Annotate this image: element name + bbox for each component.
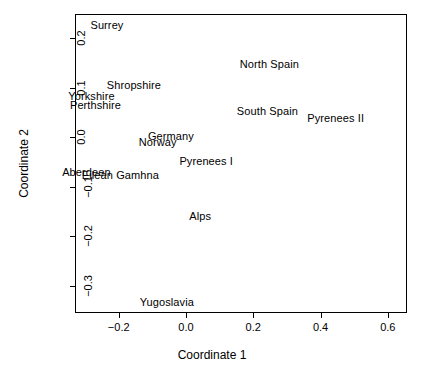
data-point-label: Norway [139,137,177,148]
data-point-label: Yugoslavia [140,297,194,308]
x-tick-mark [321,313,322,318]
data-point-label: Pyrenees I [179,156,233,167]
data-point-label: Eilean Gamhna [82,170,159,181]
x-tick-label: 0.4 [313,321,328,333]
data-point-label: North Spain [240,59,299,70]
mds-scatter-plot: −0.20.00.20.40.6 0.20.10.0−0.1−0.2−0.3 S… [0,0,424,380]
x-axis-title: Coordinate 1 [0,348,424,362]
data-point-label: Perthshire [70,100,121,111]
data-point-labels: SurreyNorth SpainShropshireYorkshirePert… [75,14,407,313]
x-tick-mark [253,313,254,318]
x-tick-mark [186,313,187,318]
x-tick-label: 0.2 [246,321,261,333]
x-tick-label: −0.2 [108,321,130,333]
x-tick-mark [119,313,120,318]
data-point-label: Surrey [90,20,123,31]
data-point-label: Pyrenees II [307,112,364,123]
data-point-label: Alps [189,210,211,221]
x-tick-label: 0.0 [178,321,193,333]
x-tick-mark [388,313,389,318]
data-point-label: Shropshire [107,80,161,91]
data-point-label: South Spain [237,106,298,117]
x-tick-label: 0.6 [380,321,395,333]
y-axis-title: Coordinate 2 [14,14,34,313]
